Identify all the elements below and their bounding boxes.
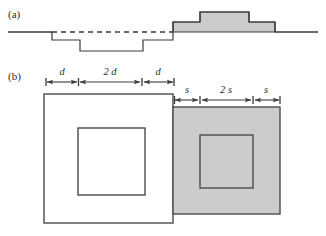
outer-square-left (44, 94, 173, 223)
panel-b: (b) d 2 d d s 2 s s (8, 66, 280, 223)
dimension-label-s-left: s (185, 84, 189, 95)
dimension-label-2d: 2 d (103, 66, 117, 77)
dimension-row-d: d 2 d d (46, 66, 174, 86)
dimension-label-d-right: d (155, 66, 161, 77)
outer-square-right (173, 107, 280, 214)
panel-a: (a) (8, 8, 318, 51)
dimension-label-s-right: s (264, 84, 268, 95)
figure-container: (a) (b) d 2 d d (0, 0, 326, 236)
dimension-label-2s: 2 s (220, 84, 232, 95)
panel-b-label: (b) (8, 70, 21, 83)
dimension-row-s: s 2 s s (175, 84, 281, 104)
dimension-label-d-left: d (59, 66, 65, 77)
panel-a-label: (a) (8, 8, 21, 21)
